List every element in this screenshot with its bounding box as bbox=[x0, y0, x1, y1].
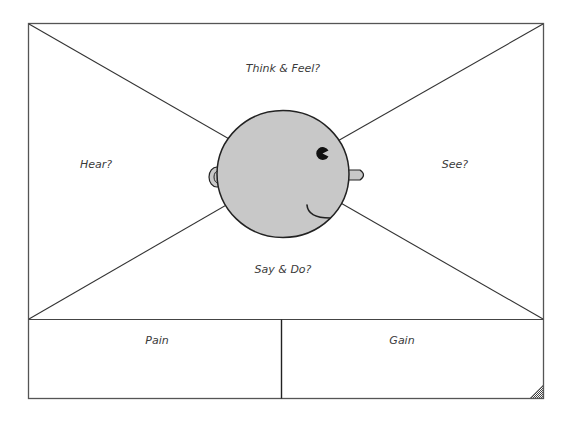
quadrant-label-say-do: Say & Do? bbox=[255, 263, 312, 276]
panel-label-pain: Pain bbox=[145, 334, 168, 347]
quadrant-label-think-feel: Think & Feel? bbox=[246, 62, 320, 75]
panel-label-gain: Gain bbox=[389, 334, 414, 347]
quadrant-label-hear: Hear? bbox=[80, 158, 112, 171]
quadrant-label-see: See? bbox=[442, 158, 468, 171]
